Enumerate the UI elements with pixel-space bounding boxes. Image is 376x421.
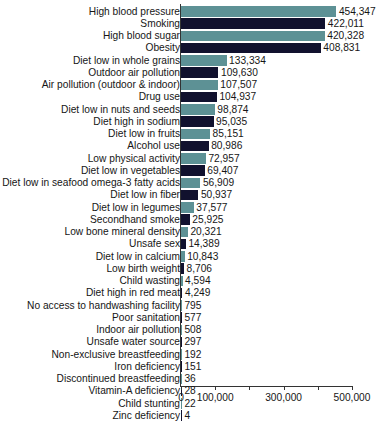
bar-category-label: Unsafe sex xyxy=(129,238,180,250)
bar-value-label: 8,706 xyxy=(186,263,212,275)
bar-row: Obesity408,831 xyxy=(0,42,363,54)
bar-category-label: Diet low in seafood omega-3 fatty acids xyxy=(2,177,180,189)
bar xyxy=(181,349,182,360)
bar xyxy=(181,153,206,164)
bar-category-label: Diet low in calcium xyxy=(96,251,180,263)
bar-value-label: 95,035 xyxy=(216,116,247,128)
x-axis-tick-label: 300,000 xyxy=(265,392,302,404)
bar-row: Air pollution (outdoor & indoor)107,507 xyxy=(0,79,363,91)
bar-row: Outdoor air pollution109,630 xyxy=(0,67,363,79)
bar-value-label: 10,843 xyxy=(187,251,218,263)
bar-row: Diet low in vegetables69,407 xyxy=(0,165,363,177)
bar-category-label: Outdoor air pollution xyxy=(88,67,180,79)
bar xyxy=(181,178,200,189)
bar-value-label: 98,874 xyxy=(217,104,248,116)
bar-value-label: 109,630 xyxy=(221,67,258,79)
bar xyxy=(181,116,214,127)
bar-category-label: Low bone mineral density xyxy=(64,226,180,238)
bar-category-label: Drug use xyxy=(139,91,180,103)
bar-category-label: Secondhand smoke xyxy=(90,214,180,226)
bar-category-label: Smoking xyxy=(140,18,180,30)
bar-category-label: Zinc deficiency xyxy=(113,410,180,421)
bar-row: Low birth weight8,706 xyxy=(0,263,363,275)
bar-value-label: 37,577 xyxy=(196,202,227,214)
bar-value-label: 14,389 xyxy=(188,238,219,250)
x-axis-tick xyxy=(215,386,216,390)
bar-row: Diet low in legumes37,577 xyxy=(0,202,363,214)
bar-row: Drug use104,937 xyxy=(0,91,363,103)
bar-row: Diet low in fiber50,937 xyxy=(0,189,363,201)
bar xyxy=(181,190,198,201)
bar-value-label: 85,151 xyxy=(213,128,244,140)
bar xyxy=(181,31,325,42)
bar-category-label: Discontinued breastfeeding xyxy=(57,373,180,385)
bar xyxy=(181,214,190,225)
bar xyxy=(181,104,215,115)
bar xyxy=(181,67,218,78)
bar xyxy=(181,141,209,152)
bar-row: Diet low in seafood omega-3 fatty acids5… xyxy=(0,177,363,189)
bar-value-label: 20,321 xyxy=(190,226,221,238)
x-axis-tick-label: 500,000 xyxy=(334,392,371,404)
bar-category-label: Child stunting xyxy=(118,398,180,410)
bar xyxy=(181,6,336,17)
bar-category-label: Unsafe water source xyxy=(87,336,180,348)
bar-row: Non-exclusive breastfeeding192 xyxy=(0,349,363,361)
bar xyxy=(181,80,218,91)
bar-category-label: Diet low in fiber xyxy=(110,189,180,201)
x-axis-tick xyxy=(352,386,353,390)
bar-value-label: 107,507 xyxy=(220,79,257,91)
bar-row: Child wasting4,594 xyxy=(0,275,363,287)
bar-row: No access to handwashing facility795 xyxy=(0,300,363,312)
bar-row: Diet high in red meat4,249 xyxy=(0,287,363,299)
x-axis-tick xyxy=(284,386,285,390)
bar xyxy=(181,410,182,421)
bar xyxy=(181,55,227,66)
bar xyxy=(181,312,182,323)
bar-category-label: Vitamin-A deficiency xyxy=(88,385,180,397)
bar-value-label: 28 xyxy=(184,385,195,397)
bar-row: Diet low in fruits85,151 xyxy=(0,128,363,140)
bar-row: Diet low in calcium10,843 xyxy=(0,251,363,263)
bar-row: Zinc deficiency4 xyxy=(0,410,363,421)
bar-value-label: 22 xyxy=(184,398,195,410)
bar-value-label: 4,249 xyxy=(185,287,211,299)
bar xyxy=(181,361,182,372)
bar-value-label: 420,328 xyxy=(327,30,364,42)
bar-value-label: 133,334 xyxy=(229,55,266,67)
bar xyxy=(181,276,183,287)
bar-row: Iron deficiency151 xyxy=(0,361,363,373)
bar-value-label: 422,011 xyxy=(328,18,364,30)
bar-category-label: Alcohol use xyxy=(127,140,180,152)
bar-value-label: 80,986 xyxy=(211,140,242,152)
bar-category-label: Diet high in sodium xyxy=(93,116,180,128)
bar-row: Poor sanitation577 xyxy=(0,312,363,324)
bar-category-label: Child wasting xyxy=(119,275,180,287)
bar-category-label: No access to handwashing facility xyxy=(27,300,180,312)
bar-row: Discontinued breastfeeding36 xyxy=(0,373,363,385)
bar-category-label: Indoor air pollution xyxy=(96,324,180,336)
bar-row: High blood pressure454,347 xyxy=(0,6,363,18)
bar-value-label: 69,407 xyxy=(207,165,238,177)
bar xyxy=(181,300,182,311)
bar xyxy=(181,227,188,238)
bar xyxy=(181,325,182,336)
bar xyxy=(181,43,321,54)
bar xyxy=(181,288,182,299)
x-axis-tick xyxy=(318,386,319,390)
bar-category-label: Diet low in nuts and seeds xyxy=(61,104,180,116)
bar-category-label: High blood pressure xyxy=(89,6,180,18)
bar xyxy=(181,374,182,385)
bar xyxy=(181,239,186,250)
bar-value-label: 577 xyxy=(184,312,201,324)
bar-row: Diet low in nuts and seeds98,874 xyxy=(0,104,363,116)
bar-value-label: 104,937 xyxy=(219,91,256,103)
bar xyxy=(181,263,184,274)
bar-value-label: 454,347 xyxy=(339,6,376,18)
bar-row: High blood sugar420,328 xyxy=(0,30,363,42)
bar-value-label: 795 xyxy=(184,300,201,312)
bar-value-label: 508 xyxy=(184,324,201,336)
bar xyxy=(181,202,194,213)
bar-value-label: 4 xyxy=(184,410,190,421)
